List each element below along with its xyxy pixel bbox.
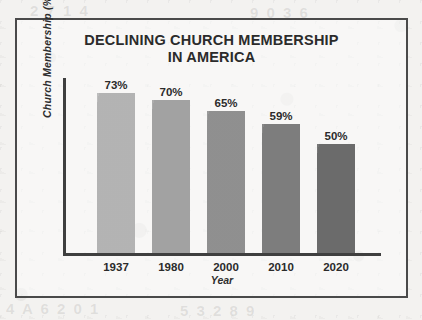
bar-value-label: 73% — [88, 79, 144, 91]
bar[interactable] — [317, 144, 355, 253]
chart-title: DECLINING CHURCH MEMBERSHIP IN AMERICA — [17, 32, 406, 66]
x-tick-label: 2000 — [196, 261, 256, 273]
x-axis-line — [63, 253, 381, 256]
x-tick-label: 2010 — [251, 261, 311, 273]
bar[interactable] — [262, 124, 300, 253]
bar[interactable] — [152, 100, 190, 253]
bar-value-label: 50% — [308, 130, 364, 142]
bar[interactable] — [97, 93, 135, 253]
x-tick-label: 1980 — [141, 261, 201, 273]
chart-title-line-2: IN AMERICA — [17, 49, 406, 66]
bar-value-label: 59% — [253, 110, 309, 122]
y-axis-line — [63, 78, 66, 256]
bar-value-label: 65% — [198, 97, 254, 109]
bar-value-label: 70% — [143, 86, 199, 98]
x-axis-title: Year — [63, 274, 381, 286]
chart-frame-border: DECLINING CHURCH MEMBERSHIP IN AMERICA C… — [15, 18, 408, 298]
chart-page: 4 A 6 2 0 1 5 3 2 8 9 2 7 1 4 9 0 3 6 DE… — [0, 0, 422, 320]
y-axis-title: Church Membership (%) — [41, 0, 53, 118]
bar[interactable] — [207, 111, 245, 253]
plot-area: Church Membership (%) Year 73% 1937 70% … — [63, 78, 393, 256]
x-tick-label: 2020 — [306, 261, 366, 273]
chart-title-line-1: DECLINING CHURCH MEMBERSHIP — [84, 32, 338, 48]
x-tick-label: 1937 — [86, 261, 146, 273]
